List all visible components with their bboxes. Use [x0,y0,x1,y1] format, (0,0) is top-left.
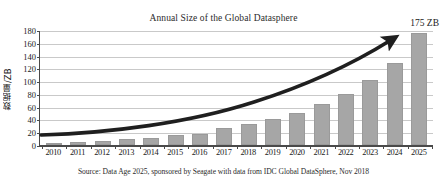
bar-slot [382,31,406,145]
x-axis-tick-label: 2018 [236,148,260,157]
bar[interactable] [289,113,305,145]
source-note: Source: Data Age 2025, sponsored by Seag… [0,167,447,176]
y-axis-tick-label: 80 [28,91,41,100]
x-axis-tick-label: 2013 [114,148,138,157]
bar[interactable] [411,33,427,145]
y-axis-tick-label: 20 [28,129,41,138]
bar-slot [139,31,163,145]
bar[interactable] [216,128,232,145]
x-axis-tick-label: 2012 [90,148,114,157]
x-axis-tick-label: 2021 [309,148,333,157]
x-axis-tick-label: 2019 [260,148,284,157]
bar-slot [237,31,261,145]
y-axis-tick-label: 60 [28,103,41,112]
bar-slot [285,31,309,145]
bar[interactable] [362,80,378,145]
x-axis-tick-label: 2024 [382,148,406,157]
plot-area: 020406080100120140160180 [39,31,433,146]
bar[interactable] [241,124,257,145]
x-axis-tick-label: 2017 [212,148,236,157]
x-axis-tick-label: 2015 [163,148,187,157]
bar-slot [309,31,333,145]
bar-slot [91,31,115,145]
bar[interactable] [265,119,281,145]
x-axis-tick-label: 2020 [285,148,309,157]
y-axis-tick-label: 180 [23,27,40,36]
bar[interactable] [338,94,354,145]
x-axis-tick-label: 2014 [139,148,163,157]
bar[interactable] [314,104,330,145]
bar-slot [261,31,285,145]
y-axis-tick-label: 100 [23,78,40,87]
x-axis-labels: 2010201120122013201420152016201720182019… [39,148,433,157]
x-axis-tick-label: 2016 [187,148,211,157]
x-axis-tick-label: 2022 [334,148,358,157]
chart-title: Annual Size of the Global Datasphere [0,13,447,23]
bar-slot [66,31,90,145]
bar-slot [115,31,139,145]
end-value-callout: 175 ZB [410,18,439,28]
bar[interactable] [192,134,208,146]
y-axis-tick-label: 120 [23,65,40,74]
bar-slot [407,31,431,145]
y-axis-title: 数据量/ZB [1,50,15,128]
chart-figure: Annual Size of the Global Datasphere 数据量… [0,0,447,189]
x-axis-tick-label: 2010 [41,148,65,157]
bar[interactable] [143,138,159,145]
bar-slot [358,31,382,145]
bar[interactable] [168,135,184,145]
x-axis-tick-label: 2011 [65,148,89,157]
bar[interactable] [387,63,403,145]
bar-slot [164,31,188,145]
y-axis-tick-label: 140 [23,52,40,61]
bar-series [40,31,433,145]
bar-slot [334,31,358,145]
y-axis-tick-label: 160 [23,40,40,49]
x-axis-tick-label: 2023 [358,148,382,157]
x-axis-tick-label: 2025 [407,148,431,157]
bar-slot [188,31,212,145]
y-axis-tick-label: 40 [28,116,41,125]
bar-slot [212,31,236,145]
bar-slot [42,31,66,145]
